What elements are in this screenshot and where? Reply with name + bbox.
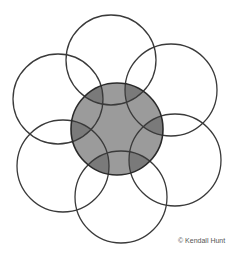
overlapping-circles-diagram — [0, 0, 234, 260]
copyright-credit: © Kendall Hunt — [178, 237, 225, 244]
